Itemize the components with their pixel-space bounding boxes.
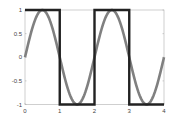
y-tick-label: 0	[19, 54, 23, 60]
y-tick-label: -1	[17, 102, 23, 108]
x-tick-label: 2	[93, 108, 97, 114]
y-tick-label: 1	[19, 7, 23, 13]
y-tick-label: -0.5	[12, 78, 23, 84]
x-tick-label: 3	[128, 108, 132, 114]
x-tick-label: 0	[23, 108, 27, 114]
y-tick-label: 0.5	[14, 31, 23, 37]
chart: 10.50-0.5-1 01234	[0, 0, 176, 120]
x-tick-label: 1	[58, 108, 62, 114]
x-tick-label: 4	[162, 108, 166, 114]
